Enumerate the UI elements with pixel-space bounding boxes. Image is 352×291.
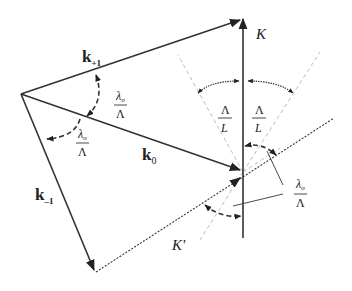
cone-line-right-lower xyxy=(243,148,280,172)
svg-text:Λ: Λ xyxy=(78,145,87,159)
svg-text:Λ: Λ xyxy=(116,107,125,121)
leader-line-lower xyxy=(233,194,283,206)
label-K: K xyxy=(255,26,267,42)
fraction-lambda-over-Lambda-upper: λo Λ xyxy=(114,89,127,121)
svg-text:λo: λo xyxy=(77,127,87,142)
K-prime-line xyxy=(96,118,334,272)
svg-text:L: L xyxy=(220,121,228,135)
angle-arc-bottom xyxy=(205,205,241,216)
k-0-vector xyxy=(21,94,240,170)
fraction-Lambda-over-L-left: Λ L xyxy=(218,103,232,135)
fraction-Lambda-over-L-right: Λ L xyxy=(252,103,266,135)
angle-arc-right-cone xyxy=(248,81,293,93)
fraction-lambda-over-Lambda-right: λo Λ xyxy=(294,177,307,210)
svg-text:Λ: Λ xyxy=(296,196,305,210)
label-K-prime: K' xyxy=(171,237,186,253)
label-k-0: k0 xyxy=(142,145,156,166)
k-prime-arrow-tip xyxy=(232,178,240,184)
k-minus1-vector xyxy=(21,94,94,270)
svg-text:λo: λo xyxy=(295,177,305,192)
angle-arc-lower xyxy=(47,119,80,139)
svg-text:λo: λo xyxy=(115,89,125,104)
label-k-minus1: k–1 xyxy=(35,185,54,206)
svg-text:L: L xyxy=(254,121,262,135)
angle-arc-left-cone xyxy=(198,81,239,93)
leader-line-upper xyxy=(267,151,283,185)
svg-text:Λ: Λ xyxy=(255,103,264,117)
k-plus1-vector xyxy=(21,20,240,94)
cone-line-left xyxy=(178,55,243,172)
diffraction-diagram: k+1 k0 k–1 K K' λo Λ λo Λ λo Λ Λ L Λ L xyxy=(0,0,352,291)
label-k-plus1: k+1 xyxy=(82,47,102,68)
angle-arc-right-small xyxy=(245,145,276,155)
svg-text:Λ: Λ xyxy=(221,103,230,117)
fraction-lambda-over-Lambda-lower: λo Λ xyxy=(76,127,89,159)
angle-arc-upper xyxy=(87,75,99,116)
